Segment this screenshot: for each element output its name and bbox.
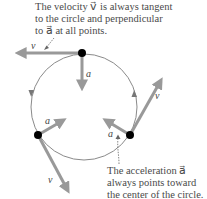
acceleration-label-left: a⃗ xyxy=(45,115,58,126)
circular-motion-diagram: v⃗ a⃗ a⃗ v⃗ v⃗ a⃗ xyxy=(0,0,207,199)
velocity-label-right: v⃗ xyxy=(155,90,167,101)
circular-path xyxy=(31,54,137,160)
particle-dot-right xyxy=(126,131,134,139)
caption-pointer-arrowhead-icon xyxy=(44,46,49,51)
acceleration-label-top: a⃗ xyxy=(86,68,99,79)
particle-dot-left xyxy=(34,131,42,139)
path-direction-arrow-right-icon xyxy=(132,90,138,97)
velocity-label-left: v⃗ xyxy=(48,174,60,185)
particle-dot-top xyxy=(78,49,86,57)
velocity-label-top: v⃗ xyxy=(31,40,43,51)
caption-pointer-bottom xyxy=(118,138,119,164)
